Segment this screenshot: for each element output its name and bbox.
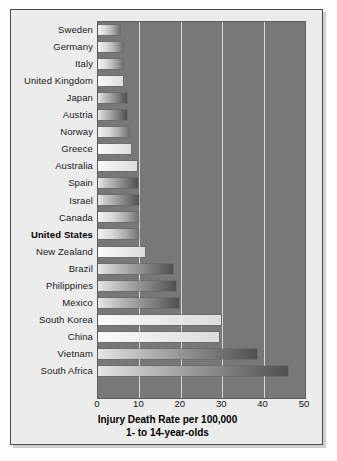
bar[interactable] [98, 178, 138, 188]
bar[interactable] [98, 110, 127, 120]
bar-track [98, 328, 305, 345]
bar-track [98, 89, 305, 106]
bar-row[interactable]: Japan [11, 89, 304, 106]
x-axis-subtitle: 1- to 14-year-olds [11, 427, 324, 440]
x-tick-40: 40 [257, 398, 268, 409]
bar-row[interactable]: Israel [11, 192, 304, 209]
bar[interactable] [98, 93, 127, 103]
bar-track [98, 175, 305, 192]
bar-row[interactable]: Italy [11, 55, 304, 72]
chart-card: SwedenGermanyItalyUnited KingdomJapanAus… [10, 9, 323, 445]
bar-row[interactable]: New Zealand [11, 243, 304, 260]
bar-row[interactable]: China [11, 328, 304, 345]
bar[interactable] [98, 332, 219, 342]
category-label: Australia [11, 161, 93, 171]
x-tick-20: 20 [175, 398, 186, 409]
x-axis: 01020304050 [97, 398, 306, 412]
x-tick-30: 30 [216, 398, 227, 409]
bar-track [98, 55, 305, 72]
bar-row[interactable]: Germany [11, 38, 304, 55]
bar[interactable] [98, 144, 131, 154]
bar-track [98, 21, 305, 38]
bar-row[interactable]: Sweden [11, 21, 304, 38]
category-label: Austria [11, 110, 93, 120]
category-label: Brazil [11, 264, 93, 274]
bar-row[interactable]: United Kingdom [11, 72, 304, 89]
bar[interactable] [98, 59, 123, 69]
bar-track [98, 311, 305, 328]
bar[interactable] [98, 281, 176, 291]
bar-track [98, 345, 305, 362]
bar[interactable] [98, 76, 123, 86]
bar-track [98, 72, 305, 89]
bar-track [98, 363, 305, 380]
bar-track [98, 260, 305, 277]
bar-chart: SwedenGermanyItalyUnited KingdomJapanAus… [11, 10, 324, 446]
x-tick-0: 0 [94, 398, 99, 409]
bar-row[interactable]: Philippines [11, 277, 304, 294]
bar[interactable] [98, 42, 123, 52]
category-label: Japan [11, 93, 93, 103]
category-label: China [11, 332, 93, 342]
bar-track [98, 106, 305, 123]
category-label: Italy [11, 59, 93, 69]
bar-track [98, 158, 305, 175]
category-label: Greece [11, 144, 93, 154]
x-tick-50: 50 [299, 398, 310, 409]
bar-row[interactable]: Vietnam [11, 345, 304, 362]
category-label: United States [11, 230, 93, 240]
bar[interactable] [98, 264, 173, 274]
bar-row[interactable]: United States [11, 226, 304, 243]
bar[interactable] [98, 195, 139, 205]
bar[interactable] [98, 349, 257, 359]
bar[interactable] [98, 161, 137, 171]
category-label: Vietnam [11, 349, 93, 359]
category-label: Germany [11, 42, 93, 52]
category-label: Mexico [11, 298, 93, 308]
category-label: Israel [11, 196, 93, 206]
bar[interactable] [98, 315, 221, 325]
category-label: South Korea [11, 315, 93, 325]
category-label: South Africa [11, 366, 93, 376]
x-axis-title: Injury Death Rate per 100,000 [11, 414, 324, 427]
x-tick-10: 10 [133, 398, 144, 409]
bar[interactable] [98, 229, 139, 239]
category-label: Sweden [11, 25, 93, 35]
bar-track [98, 192, 305, 209]
bar[interactable] [98, 298, 179, 308]
bar-track [98, 277, 305, 294]
bar-row[interactable]: Norway [11, 123, 304, 140]
bar-track [98, 38, 305, 55]
bar-row[interactable]: Brazil [11, 260, 304, 277]
category-label: Canada [11, 213, 93, 223]
bar-row[interactable]: Mexico [11, 294, 304, 311]
bar[interactable] [98, 212, 139, 222]
bar[interactable] [98, 25, 120, 35]
bar-track [98, 141, 305, 158]
bar-row[interactable]: Australia [11, 158, 304, 175]
bar-track [98, 209, 305, 226]
chart-page: SwedenGermanyItalyUnited KingdomJapanAus… [0, 0, 337, 461]
bar-row[interactable]: Greece [11, 141, 304, 158]
bar-track [98, 243, 305, 260]
category-label: Spain [11, 178, 93, 188]
bar-row[interactable]: Canada [11, 209, 304, 226]
bar-row[interactable]: Spain [11, 175, 304, 192]
bar[interactable] [98, 127, 129, 137]
bar-row[interactable]: South Africa [11, 363, 304, 380]
bar-row[interactable]: Austria [11, 106, 304, 123]
category-label: New Zealand [11, 247, 93, 257]
bar-track [98, 294, 305, 311]
category-label: Philippines [11, 281, 93, 291]
bar-row[interactable]: South Korea [11, 311, 304, 328]
category-label: United Kingdom [11, 76, 93, 86]
bar[interactable] [98, 366, 288, 376]
category-label: Norway [11, 127, 93, 137]
bar-rows: SwedenGermanyItalyUnited KingdomJapanAus… [11, 21, 304, 397]
bar-track [98, 226, 305, 243]
bar[interactable] [98, 247, 145, 257]
bar-track [98, 123, 305, 140]
